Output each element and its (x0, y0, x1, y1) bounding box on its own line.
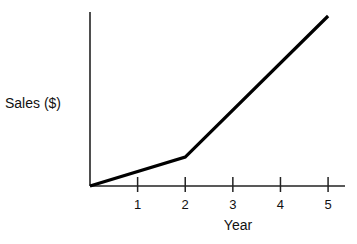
x-tick-label: 3 (229, 197, 236, 212)
x-tick-label: 5 (324, 197, 331, 212)
sales-chart: 12345 Year Sales ($) (0, 0, 357, 244)
x-axis-tick-labels: 12345 (134, 197, 332, 212)
x-tick-label: 2 (182, 197, 189, 212)
y-axis-title: Sales ($) (5, 95, 61, 111)
x-axis-ticks (138, 177, 328, 192)
x-axis-title: Year (224, 217, 253, 233)
x-tick-label: 1 (134, 197, 141, 212)
x-tick-label: 4 (277, 197, 284, 212)
sales-line (90, 16, 328, 186)
